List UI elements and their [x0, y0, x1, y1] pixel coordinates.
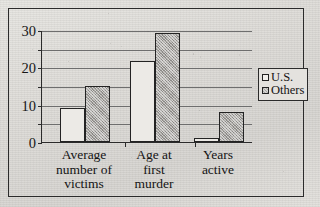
- y-tick-30: [38, 31, 42, 32]
- scan-speckle: [31, 72, 32, 73]
- category-label-line: active: [170, 163, 266, 178]
- x-axis-separator-2: [195, 142, 196, 147]
- scan-speckle: [109, 127, 110, 128]
- scan-speckle: [45, 44, 46, 45]
- y-tick-20: [38, 68, 42, 69]
- scan-speckle: [110, 43, 111, 44]
- bar-us-group-1: [60, 108, 85, 142]
- legend-item-others[interactable]: Others: [262, 84, 304, 97]
- bar-others-group-2: [155, 33, 180, 142]
- y-tick-15: [38, 87, 42, 88]
- x-axis-separator-1: [125, 142, 126, 147]
- plot-area: 0102030: [41, 31, 252, 143]
- category-label-line: murder: [106, 177, 202, 192]
- gridline-25: [42, 50, 252, 51]
- y-tick-25: [38, 50, 42, 51]
- y-axis-label-10: 10: [22, 98, 37, 113]
- scan-speckle: [172, 29, 173, 30]
- scan-speckle: [200, 56, 201, 57]
- y-axis-label-20: 20: [22, 61, 37, 76]
- legend-label-others: Others: [271, 84, 304, 97]
- bar-others-group-3: [219, 112, 244, 142]
- x-axis-category-label-3: Yearsactive: [170, 148, 266, 177]
- bar-us-group-3: [194, 138, 219, 142]
- y-tick-10: [38, 106, 42, 107]
- scan-speckle: [219, 158, 220, 159]
- scan-speckle: [77, 191, 78, 192]
- category-label-line: Years: [170, 148, 266, 163]
- chart-legend[interactable]: U.S. Others: [258, 68, 308, 101]
- y-tick-5: [38, 124, 42, 125]
- y-axis-label-30: 30: [22, 24, 37, 39]
- legend-swatch-others-icon: [262, 87, 269, 94]
- scan-speckle: [108, 13, 109, 14]
- y-axis-label-0: 0: [29, 136, 36, 151]
- bar-us-group-2: [130, 61, 155, 142]
- legend-swatch-us-icon: [262, 74, 269, 81]
- scan-speckle: [68, 61, 69, 62]
- y-tick-0: [38, 143, 42, 144]
- bar-others-group-1: [85, 86, 110, 142]
- scan-speckle: [185, 112, 186, 113]
- scan-speckle: [56, 129, 57, 130]
